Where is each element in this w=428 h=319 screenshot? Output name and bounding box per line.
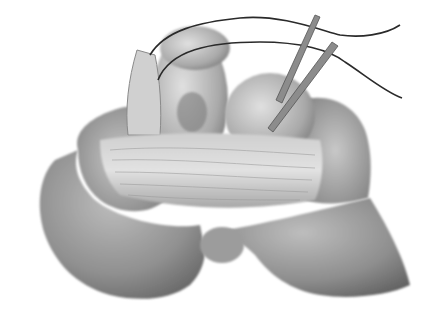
central-mound <box>200 227 244 263</box>
bowel-lumen <box>177 92 207 132</box>
muscle-band <box>100 133 322 207</box>
surgical-illustration <box>0 0 428 319</box>
right-skin-flap <box>215 198 410 297</box>
illustration-svg <box>0 0 428 319</box>
tubular-structure <box>127 50 161 135</box>
